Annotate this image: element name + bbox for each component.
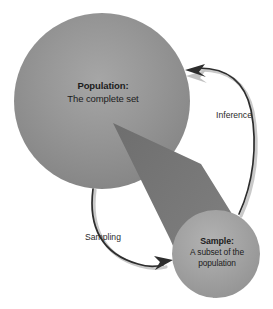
diagram-graphics (0, 0, 273, 309)
sample-circle (172, 210, 260, 298)
diagram-canvas: Population: The complete set Sample: A s… (0, 0, 273, 309)
